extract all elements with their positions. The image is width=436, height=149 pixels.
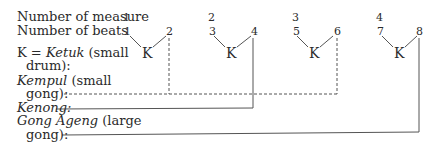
- beat-number: 4: [251, 26, 258, 38]
- beat-number: 1: [124, 26, 131, 38]
- measure-number: 4: [376, 12, 383, 24]
- measure-number: 3: [292, 12, 299, 24]
- measure-number: 1: [123, 12, 130, 24]
- beat-number: 6: [334, 26, 341, 38]
- measure-number: 2: [208, 12, 215, 24]
- beats-label: Number of beats: [17, 24, 128, 38]
- gong-legend-cont: gong):: [26, 128, 68, 142]
- beat-number: 8: [416, 26, 423, 38]
- ketuk-symbol: K: [226, 46, 236, 60]
- ketuk-symbol: K: [142, 46, 152, 60]
- beat-number: 7: [377, 26, 384, 38]
- gong-legend: Gong Ageng (large: [17, 114, 141, 128]
- beat-number: 3: [209, 26, 216, 38]
- ketuk-symbol: K: [394, 46, 404, 60]
- ketuk-legend-cont: drum):: [26, 59, 71, 73]
- beat-number: 2: [166, 26, 173, 38]
- kempul-legend-cont: gong):: [26, 87, 68, 101]
- beat-number: 5: [293, 26, 300, 38]
- ketuk-symbol: K: [309, 46, 319, 60]
